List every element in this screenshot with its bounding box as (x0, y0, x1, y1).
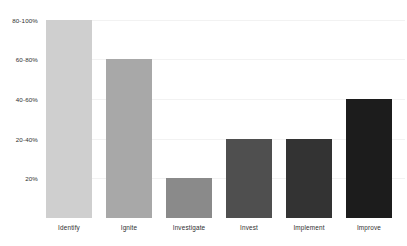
plot-area (46, 0, 405, 218)
bar-group (226, 0, 272, 218)
bar (166, 178, 212, 218)
bar (346, 99, 392, 218)
bar (46, 20, 92, 218)
y-axis: 20%20-40%40-60%60-80%80-100% (0, 0, 44, 246)
x-axis: IdentifyIgniteInvestigateInvestImplement… (46, 224, 405, 240)
y-axis-tick-label: 20% (25, 175, 38, 182)
bar-group (166, 0, 212, 218)
x-axis-category-label: Improve (334, 224, 404, 231)
bar-chart: 20%20-40%40-60%60-80%80-100% IdentifyIgn… (0, 0, 407, 246)
y-axis-tick-label: 40-60% (16, 96, 38, 103)
bar (226, 139, 272, 218)
bar (106, 59, 152, 218)
bar-group (286, 0, 332, 218)
y-axis-tick-label: 20-40% (16, 135, 38, 142)
y-axis-tick-label: 60-80% (16, 56, 38, 63)
bar-group (106, 0, 152, 218)
bar-series (46, 0, 405, 218)
bar-group (346, 0, 392, 218)
bar (286, 139, 332, 218)
bar-group (46, 0, 92, 218)
y-axis-tick-label: 80-100% (12, 16, 38, 23)
